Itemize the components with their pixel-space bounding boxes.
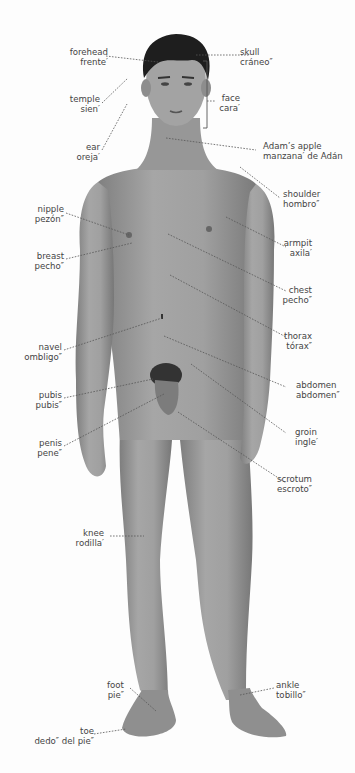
label-en: shoulder: [283, 189, 320, 199]
label-en: navel: [0, 342, 62, 352]
label-en: knee: [40, 528, 104, 538]
label-shoulder: shoulder hombro″: [283, 189, 320, 209]
label-es: ombligo″: [0, 352, 62, 362]
label-en: scrotum: [270, 474, 312, 484]
label-es: pezón″: [0, 214, 64, 224]
label-face: face cara′: [210, 93, 240, 113]
label-es: pubis″: [0, 400, 62, 410]
label-penis: penis pene″: [0, 438, 62, 458]
label-scrotum: scrotum escroto″: [270, 474, 312, 494]
label-forehead: forehead frente′: [40, 47, 108, 67]
label-temple: temple sien′: [40, 94, 100, 114]
label-es: pecho″: [270, 295, 312, 305]
label-es: tórax″: [270, 341, 312, 351]
label-knee: knee rodilla′: [40, 528, 104, 548]
label-es: axila′: [270, 248, 312, 258]
label-es: pecho″: [0, 261, 64, 271]
label-armpit: armpit axila′: [270, 238, 312, 258]
label-en: skull: [240, 47, 273, 57]
label-es: ingle′: [295, 437, 318, 447]
label-skull: skull cráneo″: [240, 47, 273, 67]
label-en: ear: [40, 142, 100, 152]
label-thorax: thorax tórax″: [270, 331, 312, 351]
label-es: hombro″: [283, 199, 320, 209]
label-es: tobillo″: [276, 690, 306, 700]
label-en: groin: [295, 427, 318, 437]
label-adams-apple: Adam’s apple manzana′ de Adán: [263, 141, 343, 161]
label-en: foot: [60, 680, 124, 690]
label-es: manzana′ de Adán: [263, 151, 343, 161]
label-en: temple: [40, 94, 100, 104]
label-pubis: pubis pubis″: [0, 390, 62, 410]
label-en: abdomen: [296, 380, 340, 390]
label-groin: groin ingle′: [295, 427, 318, 447]
label-foot: foot pie″: [60, 680, 124, 700]
label-es: pene″: [0, 448, 62, 458]
label-es: abdomen″: [296, 390, 340, 400]
label-es: cráneo″: [240, 57, 273, 67]
label-es: pie″: [60, 690, 124, 700]
label-ankle: ankle tobillo″: [276, 680, 306, 700]
label-nipple: nipple pezón″: [0, 204, 64, 224]
label-es: escroto″: [270, 484, 312, 494]
label-abdomen: abdomen abdomen″: [296, 380, 340, 400]
label-en: ankle: [276, 680, 306, 690]
label-chest: chest pecho″: [270, 285, 312, 305]
label-es: frente′: [40, 57, 108, 67]
label-en: toe: [10, 726, 94, 736]
label-en: Adam’s apple: [263, 141, 343, 151]
label-es: dedo″ del pie″: [10, 736, 94, 746]
label-ear: ear oreja′: [40, 142, 100, 162]
label-es: sien′: [40, 104, 100, 114]
label-en: forehead: [40, 47, 108, 57]
label-es: rodilla′: [40, 538, 104, 548]
label-breast: breast pecho″: [0, 251, 64, 271]
label-navel: navel ombligo″: [0, 342, 62, 362]
label-en: breast: [0, 251, 64, 261]
label-en: thorax: [270, 331, 312, 341]
label-en: nipple: [0, 204, 64, 214]
label-en: armpit: [270, 238, 312, 248]
label-es: cara′: [210, 103, 240, 113]
label-en: penis: [0, 438, 62, 448]
anatomy-diagram: forehead frente′ temple sien′ ear oreja′…: [0, 0, 355, 773]
label-toe: toe dedo″ del pie″: [10, 726, 94, 746]
label-en: face: [210, 93, 240, 103]
label-en: chest: [270, 285, 312, 295]
label-es: oreja′: [40, 152, 100, 162]
label-en: pubis: [0, 390, 62, 400]
